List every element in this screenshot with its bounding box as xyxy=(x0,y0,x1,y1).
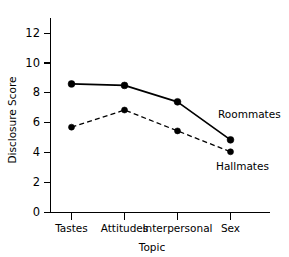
x-tick-label-attitudes: Attitudes xyxy=(101,222,149,234)
data-point xyxy=(175,128,181,134)
series-label-roommates: Roommates xyxy=(218,108,281,120)
line-chart: 12 10 8 6 4 2 0 Tastes Attitudes Interpe… xyxy=(0,0,289,257)
x-tick-marks xyxy=(72,213,231,220)
chart-container: 12 10 8 6 4 2 0 Tastes Attitudes Interpe… xyxy=(0,0,289,257)
x-tick-label-sex: Sex xyxy=(221,222,240,234)
data-point xyxy=(122,107,128,113)
data-point xyxy=(68,81,75,88)
series-label-hallmates: Hallmates xyxy=(216,160,269,172)
y-tick-label-8: 8 xyxy=(33,85,40,99)
y-tick-label-0: 0 xyxy=(33,205,40,219)
x-tick-label-tastes: Tastes xyxy=(54,222,88,234)
y-tick-label-12: 12 xyxy=(25,26,40,40)
x-axis-title: Topic xyxy=(138,241,166,253)
y-axis-title: Disclosure Score xyxy=(6,76,18,163)
series-line-roommates xyxy=(72,84,231,140)
data-point xyxy=(228,149,234,155)
y-tick-label-4: 4 xyxy=(33,145,40,159)
y-tick-label-2: 2 xyxy=(33,175,40,189)
data-point xyxy=(174,98,181,105)
y-tick-label-6: 6 xyxy=(33,115,40,129)
y-tick-label-10: 10 xyxy=(25,56,40,70)
series-markers-roommates xyxy=(68,81,234,144)
series-line-hallmates xyxy=(72,110,231,152)
data-point xyxy=(121,82,128,89)
data-point xyxy=(69,124,75,130)
data-point xyxy=(227,136,234,143)
x-tick-label-interpersonal: Interpersonal xyxy=(143,222,213,234)
y-tick-marks xyxy=(44,33,51,212)
series-markers-hallmates xyxy=(69,107,234,155)
